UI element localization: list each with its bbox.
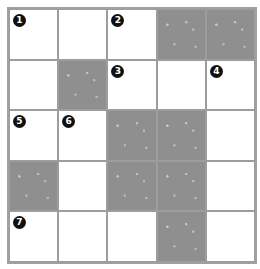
clue-number-badge: 4 bbox=[210, 65, 223, 78]
block-cell-r3-c2 bbox=[107, 161, 156, 212]
cell-r1-c0[interactable] bbox=[9, 60, 58, 111]
block-cell-r2-c2 bbox=[107, 110, 156, 161]
crossword-grid: 1 2 3 4 5 6 7 bbox=[7, 7, 257, 264]
cell-r4-c0[interactable]: 7 bbox=[9, 211, 58, 262]
clue-number-badge: 3 bbox=[111, 65, 124, 78]
cell-r2-c4[interactable] bbox=[206, 110, 255, 161]
block-cell-r2-c3 bbox=[157, 110, 206, 161]
cell-r0-c1[interactable] bbox=[58, 9, 107, 60]
clue-number-badge: 2 bbox=[111, 14, 124, 27]
cell-r4-c2[interactable] bbox=[107, 211, 156, 262]
cell-r1-c3[interactable] bbox=[157, 60, 206, 111]
cell-r0-c2[interactable]: 2 bbox=[107, 9, 156, 60]
cell-r4-c4[interactable] bbox=[206, 211, 255, 262]
clue-number-badge: 5 bbox=[13, 115, 26, 128]
cell-r2-c0[interactable]: 5 bbox=[9, 110, 58, 161]
cell-r4-c1[interactable] bbox=[58, 211, 107, 262]
cell-r2-c1[interactable]: 6 bbox=[58, 110, 107, 161]
cell-r0-c0[interactable]: 1 bbox=[9, 9, 58, 60]
cell-r3-c4[interactable] bbox=[206, 161, 255, 212]
block-cell-r1-c1 bbox=[58, 60, 107, 111]
block-cell-r3-c3 bbox=[157, 161, 206, 212]
clue-number-badge: 6 bbox=[62, 115, 75, 128]
block-cell-r4-c3 bbox=[157, 211, 206, 262]
block-cell-r3-c0 bbox=[9, 161, 58, 212]
cell-r1-c2[interactable]: 3 bbox=[107, 60, 156, 111]
clue-number-badge: 1 bbox=[13, 14, 26, 27]
block-cell-r0-c3 bbox=[157, 9, 206, 60]
cell-r1-c4[interactable]: 4 bbox=[206, 60, 255, 111]
clue-number-badge: 7 bbox=[13, 216, 26, 229]
cell-r3-c1[interactable] bbox=[58, 161, 107, 212]
block-cell-r0-c4 bbox=[206, 9, 255, 60]
